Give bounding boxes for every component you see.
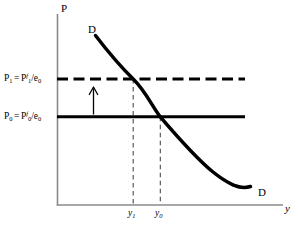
price-label-p1: P1=Pf1/e0 bbox=[4, 73, 41, 84]
demand-curve-label-top: D bbox=[88, 24, 96, 35]
price-label-p0: P0=Pf0/e0 bbox=[4, 111, 41, 122]
p1-div-sub: 0 bbox=[38, 77, 41, 84]
x-tick-label-y0: y0 bbox=[155, 209, 162, 219]
y0-sub: 0 bbox=[159, 212, 162, 219]
p0-div-sub: 0 bbox=[38, 115, 41, 122]
p0-equals: = bbox=[13, 111, 21, 121]
x-tick-label-y1: y1 bbox=[128, 209, 135, 219]
x-axis-title: y bbox=[285, 203, 290, 214]
y1-sub: 1 bbox=[132, 212, 135, 219]
y-axis-title: P bbox=[61, 3, 67, 14]
economics-demand-diagram bbox=[0, 0, 299, 233]
demand-curve-label-bottom: D bbox=[258, 187, 266, 198]
p1-equals: = bbox=[13, 73, 21, 83]
